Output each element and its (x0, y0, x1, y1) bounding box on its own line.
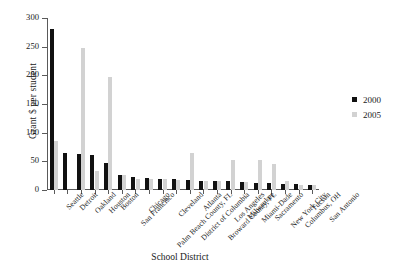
y-axis-tick: 300 (42, 18, 47, 19)
bar-2005-10 (190, 153, 194, 190)
y-axis-tick-label: 250 (26, 41, 39, 51)
bar-group (266, 18, 280, 190)
bar-2000-2 (77, 154, 81, 190)
bar-group (239, 18, 253, 190)
legend-item: 2000 (352, 92, 381, 107)
bar-2000-16 (267, 183, 271, 190)
y-axis-tick: 200 (42, 75, 47, 76)
bar-2005-13 (231, 160, 235, 190)
y-axis-tick: 250 (42, 47, 47, 48)
bar-group (253, 18, 267, 190)
bar-2000-10 (186, 180, 190, 190)
bar-group (157, 18, 171, 190)
legend-swatch-icon (352, 112, 357, 117)
bar-2000-1 (63, 153, 67, 190)
bar-group (171, 18, 185, 190)
bar-2000-9 (172, 179, 176, 190)
bar-2005-5 (122, 175, 126, 190)
bar-group (280, 18, 294, 190)
legend-label: 2005 (363, 110, 381, 120)
bar-2005-3 (95, 171, 99, 190)
legend-label: 2000 (363, 95, 381, 105)
bar-2005-11 (204, 181, 208, 190)
y-axis-tick-label: 150 (26, 98, 39, 108)
bar-group (225, 18, 239, 190)
x-axis-tick-labels: SeattleDetroitOaklandHoustonBostonSan Fr… (47, 190, 347, 250)
bar-2000-3 (90, 155, 94, 190)
bar-group (185, 18, 199, 190)
bar-2005-4 (108, 77, 112, 190)
bar-2000-8 (158, 179, 162, 190)
y-axis-tick-label: 0 (35, 184, 39, 194)
y-axis-tick: 50 (42, 161, 47, 162)
y-axis-tick: 150 (42, 104, 47, 105)
bar-group (103, 18, 117, 190)
bar-group (144, 18, 158, 190)
bar-group (130, 18, 144, 190)
y-axis-tick-label: 50 (30, 155, 39, 165)
x-axis-title: School District (0, 252, 360, 262)
bar-2000-4 (104, 163, 108, 190)
y-axis-tick: 100 (42, 133, 47, 134)
bar-2000-14 (240, 182, 244, 190)
bar-2005-12 (217, 181, 221, 190)
y-axis-tick-label: 200 (26, 69, 39, 79)
bar-group (89, 18, 103, 190)
bar-2005-8 (163, 179, 167, 190)
bar-2000-0 (50, 29, 54, 190)
bar-2005-15 (258, 160, 262, 190)
bar-group (212, 18, 226, 190)
bar-2005-14 (244, 182, 248, 190)
bar-group (198, 18, 212, 190)
bar-2005-7 (149, 179, 153, 190)
bar-2005-6 (136, 179, 140, 190)
y-axis-tick-label: 300 (26, 12, 39, 22)
x-axis-tick-label: Cleveland (176, 190, 205, 219)
y-axis-tick-label: 100 (26, 127, 39, 137)
legend-swatch-icon (352, 97, 357, 102)
bar-2000-15 (254, 183, 258, 190)
bar-2005-0 (54, 141, 58, 190)
bar-group (293, 18, 307, 190)
bar-2005-16 (272, 164, 276, 190)
bar-group (62, 18, 76, 190)
bar-chart-figure: Grant $ per student 050100150200250300 S… (0, 0, 410, 275)
bar-group (49, 18, 63, 190)
bar-2000-5 (118, 175, 122, 190)
bar-2000-6 (131, 177, 135, 190)
plot-area: 050100150200250300 (47, 18, 319, 190)
legend-item: 2005 (352, 107, 381, 122)
bar-2000-11 (199, 181, 203, 190)
bar-group (307, 18, 321, 190)
bar-2000-7 (145, 178, 149, 190)
bar-2005-2 (81, 48, 85, 190)
chart-legend: 20002005 (352, 92, 381, 122)
bar-2000-13 (226, 181, 230, 190)
bar-group (117, 18, 131, 190)
bar-2000-12 (213, 181, 217, 190)
bar-group (76, 18, 90, 190)
bar-2005-9 (176, 180, 180, 190)
